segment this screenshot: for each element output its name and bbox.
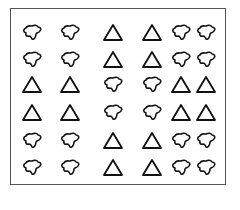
blob-icon	[194, 50, 218, 70]
blob-icon	[20, 50, 44, 70]
blob-icon	[169, 158, 193, 178]
blob-icon	[58, 23, 82, 43]
blob-icon	[140, 103, 164, 123]
blob-icon	[20, 158, 44, 178]
triangle-icon	[140, 158, 164, 178]
blob-icon	[194, 131, 218, 151]
blob-icon	[20, 131, 44, 151]
blob-icon	[101, 103, 125, 123]
blob-icon	[58, 50, 82, 70]
triangle-icon	[169, 103, 193, 123]
triangle-icon	[101, 131, 125, 151]
blob-icon	[58, 131, 82, 151]
triangle-icon	[58, 75, 82, 95]
triangle-icon	[140, 50, 164, 70]
triangle-icon	[20, 75, 44, 95]
triangle-icon	[58, 103, 82, 123]
blob-icon	[194, 23, 218, 43]
blob-icon	[58, 158, 82, 178]
triangle-icon	[101, 158, 125, 178]
blob-icon	[140, 75, 164, 95]
triangle-icon	[194, 103, 218, 123]
blob-icon	[194, 158, 218, 178]
blob-icon	[169, 23, 193, 43]
blob-icon	[169, 50, 193, 70]
blob-icon	[20, 23, 44, 43]
triangle-icon	[169, 75, 193, 95]
triangle-icon	[140, 23, 164, 43]
triangle-icon	[194, 75, 218, 95]
triangle-icon	[20, 103, 44, 123]
blob-icon	[169, 131, 193, 151]
blob-icon	[101, 75, 125, 95]
triangle-icon	[101, 50, 125, 70]
triangle-icon	[101, 23, 125, 43]
triangle-icon	[140, 131, 164, 151]
